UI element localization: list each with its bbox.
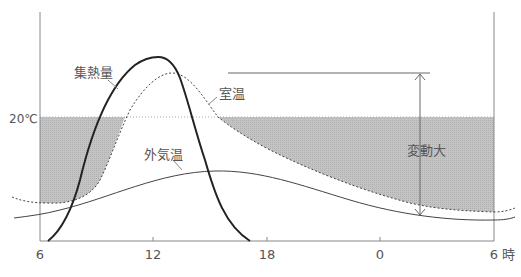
heat-collection-label: 集熱量	[74, 65, 113, 80]
x-ticks	[153, 237, 380, 241]
x-tick-label: 6	[490, 247, 498, 262]
room-temp-label: 室温	[219, 86, 245, 101]
room-label-leader	[209, 97, 217, 104]
x-tick-label: 18	[259, 247, 276, 262]
shaded-below-threshold	[40, 117, 494, 212]
time-unit-label: 時	[502, 247, 515, 262]
x-tick-label: 0	[376, 247, 384, 262]
x-tick-label: 12	[145, 247, 162, 262]
outdoor-temp-label: 外気温	[144, 147, 183, 162]
x-tick-label: 6	[36, 247, 44, 262]
temperature-diagram: 集熱量 室温 外気温 変動大 20℃ 6 12 18 0 6 時	[0, 0, 521, 277]
variation-label: 変動大	[407, 143, 446, 158]
threshold-label: 20℃	[9, 112, 38, 126]
